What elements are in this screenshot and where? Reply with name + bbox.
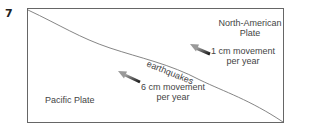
north-american-plate-label: North-American Plate bbox=[215, 18, 285, 38]
pacific-plate-label: Pacific Plate bbox=[45, 95, 95, 105]
north-american-movement-label: 1 cm movement per year bbox=[208, 46, 278, 66]
pacific-movement-label: 6 cm movement per year bbox=[138, 82, 208, 102]
